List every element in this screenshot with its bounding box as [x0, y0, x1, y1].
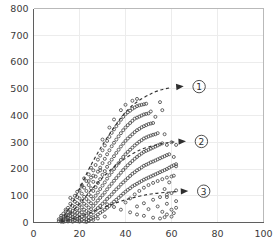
x-tick-label: 60: [165, 228, 177, 239]
data-point: [172, 155, 175, 158]
data-point: [106, 153, 109, 156]
data-point: [87, 173, 90, 176]
trend-arrow-3: [181, 188, 189, 194]
data-point: [117, 174, 120, 177]
data-point: [115, 138, 118, 141]
data-points-group: [57, 97, 177, 223]
scatter-chart: 123 0100200300400500600700800 0204060801…: [0, 0, 276, 250]
chart-canvas: 123 0100200300400500600700800 0204060801…: [0, 0, 276, 250]
data-point: [165, 176, 168, 179]
data-point: [106, 177, 109, 180]
data-point: [92, 197, 95, 200]
data-point: [103, 157, 106, 160]
data-point: [90, 195, 93, 198]
data-point: [152, 198, 155, 201]
data-point: [142, 202, 145, 205]
x-tick-label: 100: [254, 228, 272, 239]
data-point: [161, 178, 164, 181]
data-point: [106, 165, 109, 168]
data-point: [110, 182, 113, 185]
data-point: [101, 138, 104, 141]
data-point: [136, 213, 139, 216]
trend-arrow-2: [178, 138, 186, 144]
data-point: [142, 214, 145, 217]
data-point: [122, 155, 125, 158]
data-point: [90, 187, 93, 190]
y-tick-label: 100: [10, 190, 28, 201]
data-point: [122, 129, 125, 132]
y-tick-label: 800: [10, 3, 28, 14]
data-point: [161, 109, 164, 112]
data-point: [101, 194, 104, 197]
data-point: [117, 186, 120, 189]
data-point: [147, 184, 150, 187]
data-point: [108, 126, 111, 129]
data-point: [142, 186, 145, 189]
x-axis-tick-labels: 020406080100: [30, 228, 272, 239]
data-point: [136, 97, 139, 100]
data-point: [131, 99, 134, 102]
data-point: [175, 200, 178, 203]
data-point: [138, 189, 141, 192]
y-tick-label: 200: [10, 163, 28, 174]
data-point: [90, 208, 93, 211]
gridlines: [34, 9, 264, 223]
data-point: [103, 170, 106, 173]
annotation-marker-2: 2: [195, 135, 207, 147]
data-point: [163, 216, 166, 219]
data-point: [119, 132, 122, 135]
data-point: [119, 208, 122, 211]
data-point: [165, 202, 168, 205]
data-point: [119, 109, 122, 112]
data-point: [119, 145, 122, 148]
y-tick-label: 600: [10, 56, 28, 67]
data-point: [101, 162, 104, 165]
y-tick-label: 0: [22, 217, 28, 228]
data-point: [103, 181, 106, 184]
annotation-labels-group: 123: [193, 80, 210, 197]
data-point: [106, 203, 109, 206]
y-tick-label: 400: [10, 110, 28, 121]
x-tick-label: 0: [30, 228, 36, 239]
data-point: [149, 110, 152, 113]
x-tick-label: 40: [119, 228, 131, 239]
y-tick-label: 500: [10, 83, 28, 94]
data-point: [96, 158, 99, 161]
data-point: [108, 135, 111, 138]
data-point: [101, 173, 104, 176]
data-point: [110, 171, 113, 174]
data-point: [92, 204, 95, 207]
data-point: [103, 215, 106, 218]
data-point: [94, 163, 97, 166]
data-point: [159, 217, 162, 220]
data-point: [106, 188, 109, 191]
data-point: [129, 211, 132, 214]
y-axis-tick-labels: 0100200300400500600700800: [10, 3, 28, 228]
data-point: [117, 135, 120, 138]
data-point: [87, 184, 90, 187]
data-point: [108, 185, 111, 188]
data-point: [96, 191, 99, 194]
data-point: [113, 118, 116, 121]
data-point: [113, 155, 116, 158]
data-point: [117, 148, 120, 151]
data-point: [113, 205, 116, 208]
data-point: [99, 196, 102, 199]
data-point: [85, 189, 88, 192]
data-point: [113, 141, 116, 144]
data-point: [156, 180, 159, 183]
data-point: [92, 189, 95, 192]
data-point: [99, 188, 102, 191]
data-point: [136, 205, 139, 208]
data-point: [94, 202, 97, 205]
data-point: [96, 199, 99, 202]
data-point: [152, 216, 155, 219]
data-point: [96, 217, 99, 220]
data-point: [99, 154, 102, 157]
x-tick-label: 20: [73, 228, 85, 239]
data-point: [103, 144, 106, 147]
x-tick-label: 80: [211, 228, 223, 239]
data-point: [119, 171, 122, 174]
data-point: [161, 210, 164, 213]
data-point: [90, 202, 93, 205]
